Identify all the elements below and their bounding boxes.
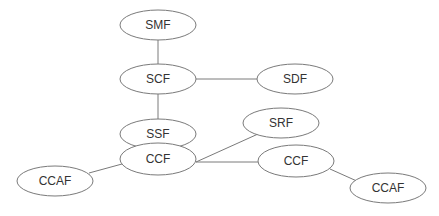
node-label: SRF	[269, 116, 293, 130]
node-ccaf2: CCAF	[350, 173, 426, 203]
node-label: CCAF	[39, 174, 72, 188]
node-label: CCF	[284, 154, 309, 168]
node-ccf2: CCF	[258, 145, 334, 177]
edge-ccf-srf	[196, 134, 258, 162]
node-srf: SRF	[243, 108, 319, 138]
node-label: CCAF	[372, 181, 405, 195]
node-sdf: SDF	[257, 64, 333, 94]
node-ccf: CCF	[120, 143, 196, 175]
node-ccaf1: CCAF	[17, 166, 93, 196]
functional-entity-diagram: SMFSCFSDFSSFCCFSRFCCFCCAFCCAF	[0, 0, 439, 216]
edge-ccf2-ccaf2	[330, 169, 359, 182]
node-label: SSF	[146, 127, 169, 141]
node-scf: SCF	[120, 64, 196, 94]
node-label: SMF	[145, 18, 170, 32]
node-smf: SMF	[120, 10, 196, 40]
node-label: SCF	[146, 72, 170, 86]
edge-ccf-ccaf1	[89, 164, 122, 173]
node-label: SDF	[283, 72, 307, 86]
nodes: SMFSCFSDFSSFCCFSRFCCFCCAFCCAF	[17, 10, 426, 203]
node-label: CCF	[146, 152, 171, 166]
